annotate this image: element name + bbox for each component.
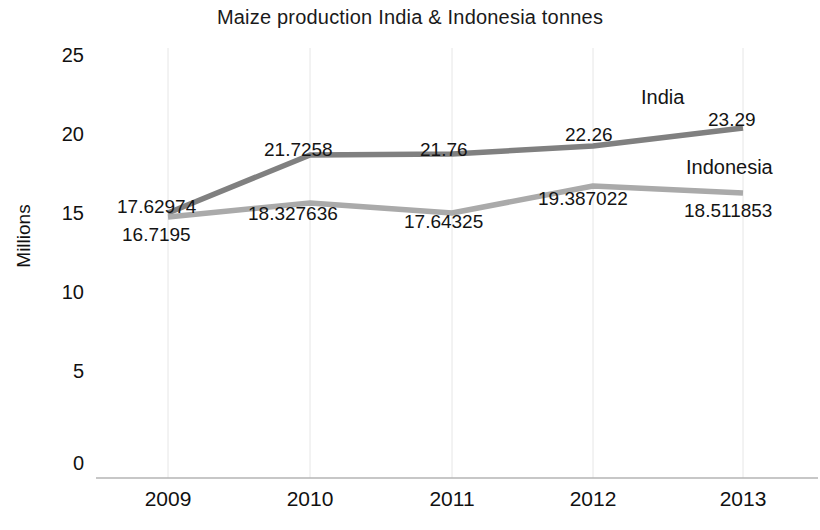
data-label-indonesia-2011: 17.64325 [404, 211, 483, 233]
data-label-indonesia-2012: 19.387022 [538, 188, 628, 210]
chart-container: Maize production India & Indonesia tonne… [0, 0, 820, 530]
data-label-indonesia-2013: 18.511853 [684, 200, 772, 222]
data-label-indonesia-2009: 16.7195 [122, 224, 191, 246]
x-tick-2012: 2012 [548, 487, 638, 511]
plot-area [0, 0, 820, 530]
series-label-india: India [641, 86, 684, 109]
data-label-india-2011: 21.76 [420, 139, 468, 161]
data-label-india-2013: 23.29 [708, 109, 756, 131]
series-label-indonesia: Indonesia [686, 156, 773, 179]
data-label-india-2010: 21.7258 [264, 139, 333, 161]
x-tick-2013: 2013 [698, 487, 788, 511]
data-label-india-2009: 17.62974 [117, 196, 196, 218]
x-tick-2009: 2009 [123, 487, 213, 511]
data-label-indonesia-2010: 18.327636 [248, 203, 338, 225]
x-tick-2011: 2011 [407, 487, 497, 511]
x-tick-2010: 2010 [265, 487, 355, 511]
data-label-india-2012: 22.26 [565, 124, 613, 146]
